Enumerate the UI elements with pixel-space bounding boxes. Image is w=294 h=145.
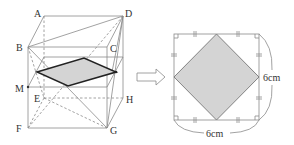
label-C: C — [110, 43, 117, 54]
square-diagram — [171, 31, 272, 133]
label-B: B — [16, 42, 23, 53]
label-G: G — [110, 125, 117, 136]
inner-diamond — [174, 34, 259, 120]
side-length-label: 6cm — [263, 72, 280, 83]
label-H: H — [126, 94, 133, 105]
bottom-length-label: 6cm — [206, 128, 223, 139]
label-D: D — [125, 8, 132, 19]
diagonal-BD — [28, 16, 123, 47]
right-angle-br — [255, 116, 259, 120]
hidden-diagonal-EG — [44, 98, 107, 128]
diagonal-BG — [28, 47, 107, 128]
right-angle-tl — [174, 34, 178, 38]
label-F: F — [16, 123, 22, 134]
geometry-figure: A B C D M E H F G 6cm 6cm — [0, 0, 294, 145]
point-M — [27, 86, 29, 88]
shaded-cross-section — [37, 58, 116, 86]
point-right-vertex — [115, 71, 117, 73]
arrow-right-icon — [137, 69, 165, 85]
label-M: M — [15, 83, 24, 94]
prism-diagram — [27, 16, 123, 128]
label-E: E — [34, 93, 40, 104]
right-angle-bl — [174, 116, 178, 120]
label-A: A — [34, 8, 42, 19]
right-angle-tr — [255, 34, 259, 38]
